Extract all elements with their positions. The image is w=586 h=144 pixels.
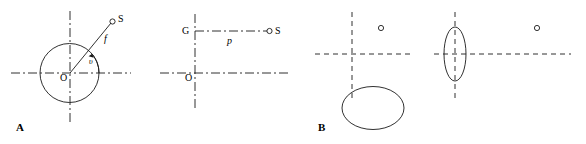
panel-b1-wide-ellipse — [342, 87, 404, 130]
panel-b2-source-marker-icon — [534, 25, 539, 30]
panel-b1-source-marker-icon — [378, 25, 383, 30]
panel-b-tag: B — [318, 122, 325, 133]
panel-a-tag: A — [16, 122, 24, 133]
panel-a2-source-marker-icon — [267, 28, 272, 33]
panel-a2-gamma-label: G — [182, 26, 189, 36]
panel-a1-distance-label: f — [104, 34, 107, 44]
panel-a2-distance-label: p — [227, 36, 232, 46]
panel-a2-source-label: S — [275, 26, 281, 36]
panel-a1-source-label: S — [118, 14, 124, 24]
panel-a1-origin-label: O — [60, 73, 67, 83]
figure-vector-canvas — [0, 0, 586, 144]
panel-a2-origin-label: O — [185, 73, 192, 83]
figure-panel-group: O S f υ G O S p A B — [0, 0, 586, 144]
panel-a1-source-marker-icon — [110, 19, 115, 24]
panel-a1-angle-label: υ — [89, 58, 93, 66]
